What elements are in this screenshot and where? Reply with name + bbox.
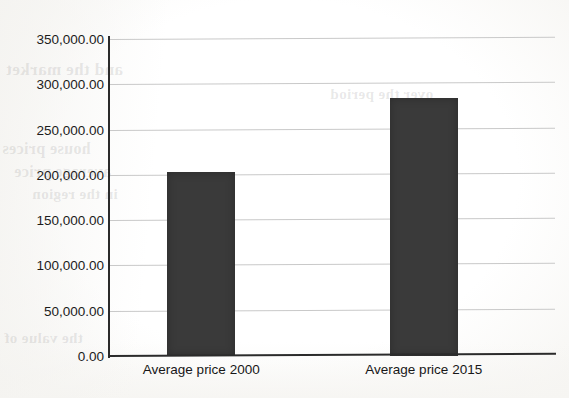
y-axis-tick-label: 100,000.00 bbox=[2, 258, 104, 273]
x-axis-category-labels: Average price 2000Average price 2015 bbox=[110, 362, 560, 388]
y-axis-tick-label: 150,000.00 bbox=[2, 213, 104, 228]
y-axis-tick-label: 350,000.00 bbox=[2, 32, 104, 47]
y-axis-tick-labels: 350,000.00300,000.00250,000.00200,000.00… bbox=[0, 0, 104, 398]
gridline bbox=[110, 82, 555, 85]
bar-chart-figure: and the market house prices average pric… bbox=[0, 0, 569, 398]
bar bbox=[167, 172, 235, 356]
x-axis-category-label: Average price 2015 bbox=[339, 362, 509, 377]
bar bbox=[390, 98, 458, 356]
y-axis-line bbox=[108, 36, 110, 358]
y-axis-tick-label: 50,000.00 bbox=[2, 303, 104, 318]
x-axis-category-label: Average price 2000 bbox=[116, 362, 286, 377]
y-axis-tick-label: 0.00 bbox=[2, 349, 104, 364]
y-axis-tick-label: 250,000.00 bbox=[2, 122, 104, 137]
gridline bbox=[110, 127, 555, 130]
y-axis-tick-label: 300,000.00 bbox=[2, 77, 104, 92]
y-axis-tick-label: 200,000.00 bbox=[2, 167, 104, 182]
plot-area bbox=[110, 39, 555, 356]
gridline bbox=[110, 37, 555, 40]
